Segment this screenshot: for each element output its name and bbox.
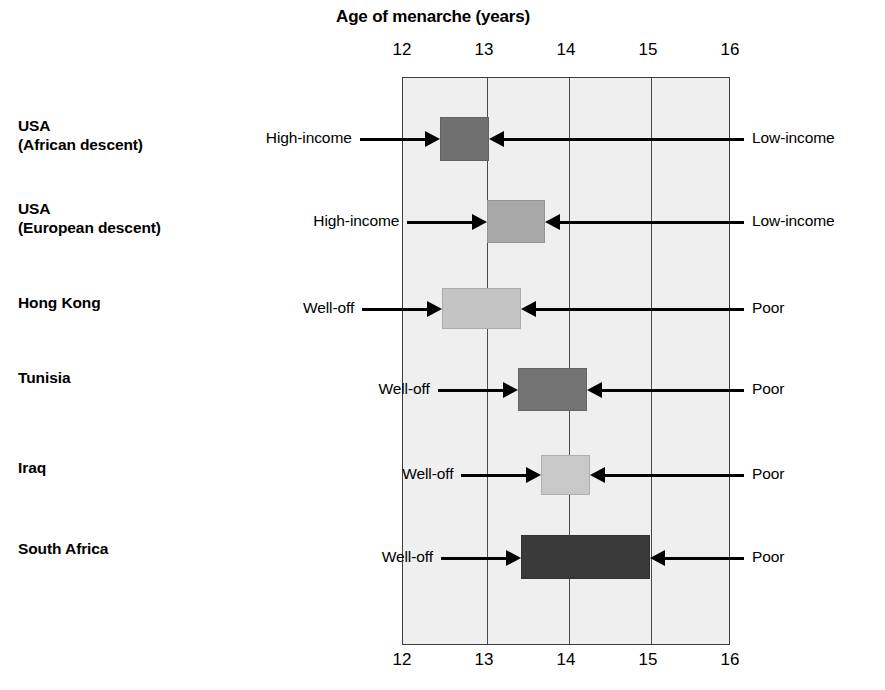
right-annotation-6: Poor <box>752 548 784 566</box>
left-annotation-5: Well-off <box>402 465 453 483</box>
right-annotation-1: Low-income <box>752 129 835 147</box>
right-leader-line-1 <box>504 138 744 141</box>
row-label-iraq: Iraq <box>18 458 46 477</box>
right-arrowhead-6 <box>650 550 665 566</box>
bar-iraq <box>541 455 589 495</box>
right-annotation-5: Poor <box>752 465 784 483</box>
row-label-usa-european-descent: USA (European descent) <box>18 199 161 237</box>
right-arrowhead-5 <box>590 467 605 483</box>
right-arrowhead-4 <box>587 382 602 398</box>
right-annotation-4: Poor <box>752 380 784 398</box>
right-leader-line-2 <box>560 221 744 224</box>
xtick-top-14: 14 <box>546 40 586 60</box>
left-arrowhead-1 <box>425 131 440 147</box>
bar-usa-european-descent <box>487 200 544 243</box>
row-label-hong-kong: Hong Kong <box>18 293 101 312</box>
left-arrowhead-4 <box>503 382 518 398</box>
xtick-bottom-12: 12 <box>382 650 422 670</box>
right-leader-line-5 <box>605 474 744 477</box>
left-leader-line-5 <box>461 474 527 477</box>
right-leader-line-6 <box>665 557 744 560</box>
right-annotation-3: Poor <box>752 299 784 317</box>
left-leader-line-2 <box>407 221 473 224</box>
right-arrowhead-1 <box>489 131 504 147</box>
chart-title: Age of menarche (years) <box>133 7 733 27</box>
right-leader-line-4 <box>602 389 744 392</box>
row-label-usa-african-descent: USA (African descent) <box>18 116 143 154</box>
row-label-south-africa: South Africa <box>18 539 108 558</box>
xtick-top-16: 16 <box>710 40 750 60</box>
xtick-top-13: 13 <box>464 40 504 60</box>
bar-tunisia <box>518 368 588 411</box>
chart-figure: Age of menarche (years) 12 13 14 15 16 1… <box>0 0 885 690</box>
left-arrowhead-3 <box>427 301 442 317</box>
right-annotation-2: Low-income <box>752 212 835 230</box>
left-arrowhead-2 <box>472 214 487 230</box>
left-annotation-3: Well-off <box>303 299 354 317</box>
right-arrowhead-3 <box>521 301 536 317</box>
left-leader-line-6 <box>441 557 507 560</box>
bar-usa-african-descent <box>440 117 489 161</box>
xtick-bottom-14: 14 <box>546 650 586 670</box>
left-arrowhead-6 <box>506 550 521 566</box>
bar-hong-kong <box>442 288 521 329</box>
right-leader-line-3 <box>536 308 744 311</box>
left-annotation-6: Well-off <box>382 548 433 566</box>
row-label-tunisia: Tunisia <box>18 368 70 387</box>
xtick-bottom-15: 15 <box>628 650 668 670</box>
right-arrowhead-2 <box>545 214 560 230</box>
xtick-bottom-13: 13 <box>464 650 504 670</box>
left-annotation-1: High-income <box>266 129 352 147</box>
left-arrowhead-5 <box>526 467 541 483</box>
xtick-top-12: 12 <box>382 40 422 60</box>
left-annotation-4: Well-off <box>378 380 429 398</box>
xtick-top-15: 15 <box>628 40 668 60</box>
xtick-bottom-16: 16 <box>710 650 750 670</box>
left-annotation-2: High-income <box>313 212 399 230</box>
left-leader-line-3 <box>362 308 428 311</box>
bar-south-africa <box>521 535 650 579</box>
left-leader-line-1 <box>360 138 426 141</box>
left-leader-line-4 <box>438 389 504 392</box>
